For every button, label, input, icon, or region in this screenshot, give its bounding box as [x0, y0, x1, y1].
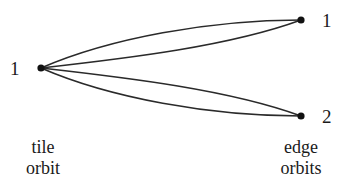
edge-arc-tile-to-edge2-lower — [41, 68, 301, 116]
edge-orbits-caption: edge orbits — [256, 137, 346, 179]
tile-caption-line2: orbit — [0, 158, 88, 179]
edge-orbit-node-1 — [297, 16, 304, 23]
edge-caption-line2: orbits — [256, 158, 346, 179]
tile-orbit-caption: tile orbit — [0, 137, 88, 179]
tile-caption-line1: tile — [0, 137, 88, 158]
edge-caption-line1: edge — [256, 137, 346, 158]
edge-arc-tile-to-edge2-upper — [41, 68, 301, 116]
edge-node-bottom-label: 2 — [322, 107, 332, 126]
tile-node-label: 1 — [10, 59, 20, 78]
edge-node-top-label: 1 — [322, 11, 332, 30]
edge-arc-tile-to-edge1-upper — [41, 20, 301, 68]
edge-orbit-node-2 — [297, 112, 304, 119]
edge-arc-tile-to-edge1-lower — [41, 20, 301, 68]
tile-orbit-node — [37, 64, 44, 71]
